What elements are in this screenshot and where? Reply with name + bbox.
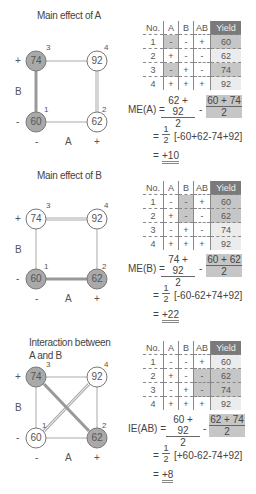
node-62-value: 62 [90,116,104,127]
a-plus-label: + [94,136,100,147]
node-74-value: 74 [29,55,43,66]
node-2-id: 2 [102,105,106,114]
formula-1-lhs: ME(A) = [128,104,165,115]
node-92-value: 92 [90,55,104,66]
formula-1-expansion: [-60+62-74+92] [174,131,242,142]
node-60-value: 60 [29,116,43,127]
formula-3-lhs: IE(AB) = [128,423,166,434]
formula-2-lhs: ME(B) = [128,263,165,274]
panel-3-title: Interaction between [29,337,111,348]
a-minus-label: - [35,136,38,147]
panel-2-title: Main effect of B [37,170,102,181]
node-1-id: 1 [44,105,48,114]
a-axis-label: A [65,136,72,147]
formula-3-result: +8 [162,469,173,483]
formula-2-result: +22 [162,309,179,323]
design-table-1: No.ABABYield 1--+60 2+--62 3-+-74 4+++92 [143,21,241,90]
b-plus-label: + [15,55,21,66]
b-minus-label: - [16,116,19,127]
design-table-2: No.ABABYield 1--+60 2+--62 3-+-74 4+++92 [143,181,241,250]
design-table-3: No.ABABYield 1--+60 2+--62 3-+-74 4+++92 [143,341,241,410]
panel-1-title: Main effect of A [37,10,101,21]
formula-2-expansion: [-60-62+74+92] [174,290,242,301]
node-3-id: 3 [46,43,50,52]
b-axis-label: B [15,86,22,97]
node-4-id: 4 [104,43,108,52]
formula-1-result: +10 [162,150,179,164]
formula-1-frac2: 60 + 742 [206,95,242,118]
formula-3-expansion: [+60-62-74+92] [174,450,242,461]
